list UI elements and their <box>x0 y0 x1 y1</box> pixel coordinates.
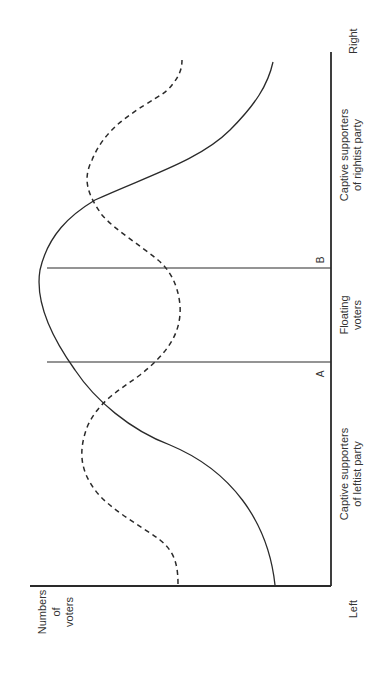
voter-distribution-diagram: Left Right Numbers of voters A B Captive… <box>0 0 391 674</box>
dashed-curve-bimodal <box>82 60 182 584</box>
ylabel-line-1: Numbers <box>36 589 48 634</box>
left-label: Left <box>347 600 359 618</box>
region-mid-line-1: Floating <box>338 295 350 334</box>
marker-a-label: A <box>315 370 326 377</box>
marker-b-label: B <box>315 256 326 263</box>
ylabel-line-2: of <box>50 606 62 616</box>
region-right-line-1: Captive supporters <box>338 108 350 201</box>
region-left-line-1: Captive supporters <box>338 427 350 520</box>
solid-curve-unimodal <box>39 62 275 585</box>
right-label: Right <box>347 28 359 54</box>
region-left-line-2: of leftist party <box>351 441 363 507</box>
region-right-line-2: of rightist party <box>351 118 363 191</box>
ylabel-line-3: voters <box>63 597 75 627</box>
region-mid-line-2: voters <box>351 300 363 330</box>
